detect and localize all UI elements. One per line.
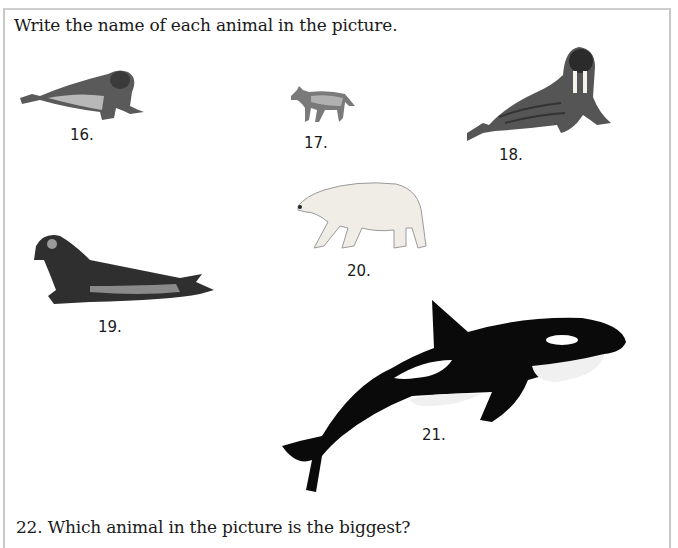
elephant-seal-icon — [30, 230, 216, 310]
item-number-18: 18. — [499, 146, 523, 164]
wolf-icon — [289, 84, 359, 126]
elephant-seal-icon — [18, 66, 148, 124]
item-number-21: 21. — [422, 426, 446, 444]
orca-icon — [282, 296, 628, 496]
instruction-text: Write the name of each animal in the pic… — [14, 15, 397, 35]
walrus-icon — [465, 45, 611, 145]
item-number-16: 16. — [70, 126, 94, 144]
item-number-17: 17. — [304, 134, 328, 152]
question-22: 22. Which animal in the picture is the b… — [16, 517, 410, 537]
item-number-20: 20. — [347, 262, 371, 280]
item-number-19: 19. — [98, 318, 122, 336]
polar-bear-icon — [296, 176, 430, 252]
